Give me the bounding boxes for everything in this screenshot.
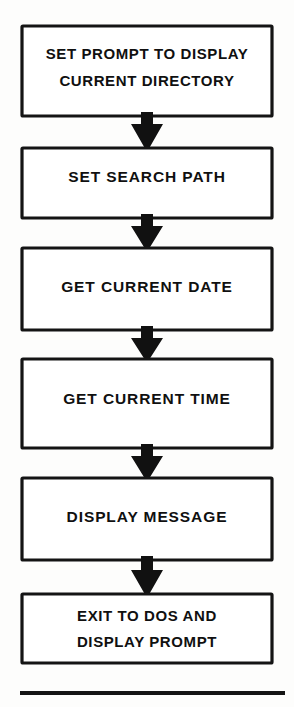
- flowchart-node: GET CURRENT TIME: [22, 359, 272, 448]
- node-label-6-line-1: EXIT TO DOS AND: [77, 607, 217, 624]
- flowchart-diagram: SET PROMPT TO DISPLAY CURRENT DIRECTORY …: [0, 0, 294, 707]
- arrow-down-icon-1: [131, 112, 163, 152]
- flowchart-node: DISPLAY MESSAGE: [22, 478, 272, 560]
- node-label-1-line-2: CURRENT DIRECTORY: [59, 72, 234, 89]
- flowchart-connector-arrow: [131, 556, 163, 598]
- flowchart-node: GET CURRENT DATE: [22, 248, 272, 330]
- flowchart-node: SET PROMPT TO DISPLAY CURRENT DIRECTORY: [22, 26, 272, 116]
- flowchart-connector-arrow: [131, 112, 163, 152]
- flowchart-connector-arrow: [131, 214, 163, 252]
- node-label-5: DISPLAY MESSAGE: [67, 508, 228, 525]
- flowchart-node: SET SEARCH PATH: [22, 148, 272, 218]
- node-label-1-line-1: SET PROMPT TO DISPLAY: [46, 45, 249, 62]
- node-label-6-line-2: DISPLAY PROMPT: [77, 633, 217, 650]
- flowchart-node: EXIT TO DOS AND DISPLAY PROMPT: [22, 594, 272, 663]
- arrow-down-icon-5: [131, 556, 163, 598]
- flowchart-canvas: SET PROMPT TO DISPLAY CURRENT DIRECTORY …: [0, 0, 294, 707]
- arrow-down-icon-2: [131, 214, 163, 252]
- node-box-6: [22, 594, 272, 663]
- node-label-3: GET CURRENT DATE: [61, 278, 233, 295]
- node-label-4: GET CURRENT TIME: [63, 390, 231, 407]
- arrow-down-icon-4: [131, 444, 163, 482]
- node-label-2: SET SEARCH PATH: [68, 168, 226, 185]
- flowchart-connector-arrow: [131, 444, 163, 482]
